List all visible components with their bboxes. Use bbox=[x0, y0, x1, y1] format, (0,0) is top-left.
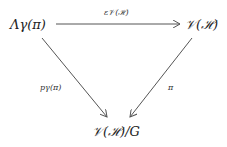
node-top-left: Λγ(π) bbox=[10, 18, 46, 31]
node-top-right: 𝒱(ℋ) bbox=[185, 18, 218, 31]
node-bottom: 𝒱(ℋ)/G bbox=[92, 125, 140, 138]
arrow-right bbox=[130, 38, 192, 117]
label-left-arrow: pγ(π) bbox=[40, 84, 61, 92]
label-right-arrow: π bbox=[168, 84, 173, 92]
label-top-arrow: ε𝒱(ℋ) bbox=[104, 9, 129, 17]
arrow-left bbox=[42, 38, 107, 117]
